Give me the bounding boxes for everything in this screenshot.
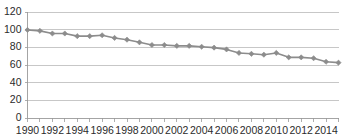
data-point-1991 <box>37 28 42 33</box>
line-chart: 020406080100120 199019921994199619982000… <box>0 0 347 139</box>
series-line-1 <box>28 30 339 63</box>
y-tick-label-80: 80 <box>10 40 22 52</box>
x-tick-label-2012: 2012 <box>290 124 314 136</box>
data-point-2009 <box>261 52 266 57</box>
y-tick-label-40: 40 <box>10 76 22 88</box>
y-tick-labels: 020406080100120 <box>4 5 22 123</box>
data-point-1994 <box>75 34 80 39</box>
y-tick-label-100: 100 <box>4 23 22 35</box>
data-point-1995 <box>87 34 92 39</box>
data-point-2010 <box>274 50 279 55</box>
x-tick-label-2002: 2002 <box>165 124 189 136</box>
data-point-1997 <box>112 35 117 40</box>
x-tick-label-1998: 1998 <box>115 124 139 136</box>
data-point-2004 <box>199 44 204 49</box>
y-tick-label-20: 20 <box>10 93 22 105</box>
data-point-1992 <box>50 31 55 36</box>
x-tick-label-2006: 2006 <box>215 124 239 136</box>
data-point-2011 <box>286 55 291 60</box>
chart-canvas: 020406080100120 199019921994199619982000… <box>0 0 347 139</box>
series-group <box>25 27 341 65</box>
x-tick-label-1992: 1992 <box>41 124 65 136</box>
data-point-1993 <box>62 31 67 36</box>
data-point-2005 <box>212 45 217 50</box>
x-tick-label-2004: 2004 <box>190 124 214 136</box>
x-tick-label-1994: 1994 <box>66 124 90 136</box>
data-point-2000 <box>149 42 154 47</box>
data-point-2007 <box>236 50 241 55</box>
data-point-2013 <box>311 56 316 61</box>
data-point-2008 <box>249 51 254 56</box>
data-point-1998 <box>124 37 129 42</box>
y-tick-label-60: 60 <box>10 58 22 70</box>
gridlines <box>28 12 339 100</box>
y-tick-label-0: 0 <box>16 111 22 123</box>
data-point-1999 <box>137 40 142 45</box>
data-point-2012 <box>299 55 304 60</box>
data-point-2015 <box>336 60 341 65</box>
y-tick-label-120: 120 <box>4 5 22 17</box>
x-tick-label-2000: 2000 <box>140 124 164 136</box>
data-point-2001 <box>162 42 167 47</box>
data-point-1990 <box>25 27 30 32</box>
x-tick-label-1990: 1990 <box>16 124 40 136</box>
x-tick-label-2010: 2010 <box>265 124 289 136</box>
data-point-1996 <box>100 33 105 38</box>
x-tick-label-2014: 2014 <box>314 124 338 136</box>
data-point-2014 <box>323 59 328 64</box>
x-tick-label-2008: 2008 <box>240 124 264 136</box>
x-tick-labels: 1990199219941996199820002002200420062008… <box>16 124 338 136</box>
x-tick-label-1996: 1996 <box>90 124 114 136</box>
x-tickmarks <box>28 118 339 122</box>
